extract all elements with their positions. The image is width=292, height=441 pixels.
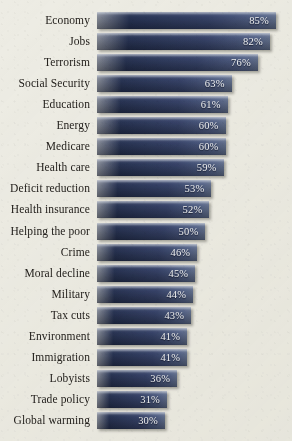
horizontal-bar-chart: Economy85%Jobs82%Terrorism76%Social Secu… (0, 0, 292, 441)
category-label: Immigration (0, 348, 90, 366)
bar-value-label: 82% (243, 33, 263, 50)
bar-container: 61% (97, 96, 228, 113)
category-label: Energy (0, 116, 90, 134)
category-label: Terrorism (0, 53, 90, 71)
bar-value-label: 60% (199, 138, 219, 155)
bar: 46% (97, 244, 197, 261)
category-label: Lobyists (0, 369, 90, 387)
bar: 30% (97, 412, 165, 429)
bar-container: 44% (97, 286, 193, 303)
bar-value-label: 52% (183, 201, 203, 218)
bar: 60% (97, 117, 226, 134)
bar-container: 53% (97, 180, 211, 197)
category-label: Moral decline (0, 264, 90, 282)
bar-value-label: 31% (140, 391, 160, 408)
bar-container: 60% (97, 117, 226, 134)
category-label: Military (0, 285, 90, 303)
bar-row: Tax cuts43% (0, 307, 292, 324)
bar: 63% (97, 75, 232, 92)
bar-value-label: 41% (160, 328, 180, 345)
bar-value-label: 46% (170, 244, 190, 261)
bar-container: 59% (97, 159, 224, 176)
bar-container: 31% (97, 391, 167, 408)
bar-row: Jobs82% (0, 33, 292, 50)
bar-row: Trade policy31% (0, 391, 292, 408)
bar: 36% (97, 370, 177, 387)
category-label: Crime (0, 243, 90, 261)
bar-row: Terrorism76% (0, 54, 292, 71)
bar-row: Deficit reduction53% (0, 180, 292, 197)
bar-row: Economy85% (0, 12, 292, 29)
bar-row: Health insurance52% (0, 201, 292, 218)
bar: 60% (97, 138, 226, 155)
bar-value-label: 30% (138, 412, 158, 429)
bar-row: Education61% (0, 96, 292, 113)
bar-row: Crime46% (0, 244, 292, 261)
bar-container: 45% (97, 265, 195, 282)
bar: 76% (97, 54, 258, 71)
bar: 45% (97, 265, 195, 282)
bar-row: Helping the poor50% (0, 223, 292, 240)
category-label: Tax cuts (0, 306, 90, 324)
bar-row: Health care59% (0, 159, 292, 176)
bar-row: Lobyists36% (0, 370, 292, 387)
bar-container: 60% (97, 138, 226, 155)
bar: 59% (97, 159, 224, 176)
category-label: Economy (0, 11, 90, 29)
bar: 82% (97, 33, 270, 50)
bar-value-label: 41% (160, 349, 180, 366)
bar: 41% (97, 328, 187, 345)
category-label: Jobs (0, 32, 90, 50)
category-label: Health care (0, 158, 90, 176)
category-label: Social Security (0, 74, 90, 92)
bar: 41% (97, 349, 187, 366)
bar-row: Social Security63% (0, 75, 292, 92)
bar-row: Environment41% (0, 328, 292, 345)
bar: 31% (97, 391, 167, 408)
category-label: Medicare (0, 137, 90, 155)
bar-row: Military44% (0, 286, 292, 303)
bar-value-label: 61% (201, 96, 221, 113)
category-label: Deficit reduction (0, 179, 90, 197)
bar: 85% (97, 12, 276, 29)
bar: 44% (97, 286, 193, 303)
category-label: Trade policy (0, 390, 90, 408)
bar-container: 41% (97, 349, 187, 366)
bar-row: Medicare60% (0, 138, 292, 155)
bar-container: 43% (97, 307, 191, 324)
bar-container: 30% (97, 412, 165, 429)
bar-value-label: 44% (166, 286, 186, 303)
bar-value-label: 45% (168, 265, 188, 282)
bar-container: 52% (97, 201, 209, 218)
bar: 61% (97, 96, 228, 113)
bar-container: 41% (97, 328, 187, 345)
bar-value-label: 53% (185, 180, 205, 197)
bar-value-label: 43% (164, 307, 184, 324)
bar-value-label: 59% (197, 159, 217, 176)
bar-value-label: 76% (231, 54, 251, 71)
bar-row: Energy60% (0, 117, 292, 134)
bar-container: 85% (97, 12, 276, 29)
bar-value-label: 36% (150, 370, 170, 387)
category-label: Health insurance (0, 200, 90, 218)
bar-container: 36% (97, 370, 177, 387)
bar-container: 76% (97, 54, 258, 71)
bar-container: 63% (97, 75, 232, 92)
bar-container: 82% (97, 33, 270, 50)
bar: 52% (97, 201, 209, 218)
bar-row: Global warming30% (0, 412, 292, 429)
category-label: Education (0, 95, 90, 113)
category-label: Environment (0, 327, 90, 345)
bar-value-label: 63% (205, 75, 225, 92)
bar-value-label: 50% (179, 223, 199, 240)
bar-container: 46% (97, 244, 197, 261)
bar-container: 50% (97, 223, 205, 240)
bar: 50% (97, 223, 205, 240)
category-label: Helping the poor (0, 222, 90, 240)
bar-row: Moral decline45% (0, 265, 292, 282)
bar: 43% (97, 307, 191, 324)
bar-value-label: 85% (249, 12, 269, 29)
bar-row: Immigration41% (0, 349, 292, 366)
bar: 53% (97, 180, 211, 197)
bar-value-label: 60% (199, 117, 219, 134)
